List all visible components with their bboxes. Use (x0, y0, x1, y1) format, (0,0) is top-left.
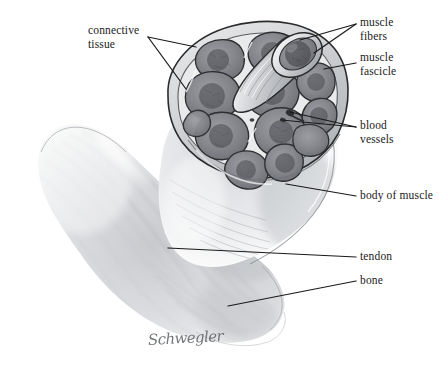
label-muscle-fascicle: muscle fascicle (360, 51, 396, 78)
label-blood-vessels: blood vessels (360, 119, 394, 146)
label-body-of-muscle: body of muscle (360, 189, 433, 203)
label-bone: bone (360, 274, 383, 288)
label-muscle-fibers: muscle fibers (360, 16, 393, 43)
fascicle (293, 124, 329, 156)
label-tendon: tendon (360, 250, 392, 264)
label-connective-tissue: connective tissue (88, 24, 139, 51)
connective-tissue-leader-a (148, 37, 196, 47)
illustration-page: connective tissue muscle fibers muscle f… (0, 0, 439, 380)
